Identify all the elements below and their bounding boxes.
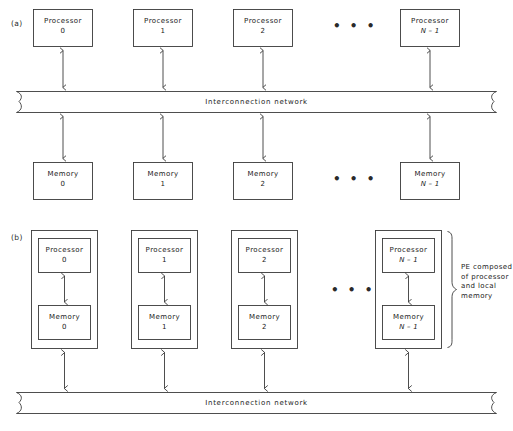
pe-processor-box-2 xyxy=(239,239,291,273)
pe-memory-box-0 xyxy=(39,306,91,340)
panel-label-a: (a) xyxy=(11,19,23,28)
memory-box-0 xyxy=(34,163,93,200)
memory-box-n xyxy=(401,163,460,200)
pe-memory-box-1 xyxy=(139,306,191,340)
figure-canvas xyxy=(0,0,513,431)
processor-box-0 xyxy=(34,10,93,47)
panel-label-b: (b) xyxy=(11,233,23,242)
processor-box-n xyxy=(401,10,460,47)
pe-annotation-text: PE composed of processor and local memor… xyxy=(461,263,512,301)
pe-annotation-brace xyxy=(448,232,457,348)
pe-memory-box-2 xyxy=(239,306,291,340)
interconnection-network-label-b: Interconnection network xyxy=(0,399,513,407)
pe-annotation-line-1: PE composed xyxy=(461,263,512,273)
processor-box-1 xyxy=(134,10,193,47)
parallel-architecture-figure: (a) (b) Processor 0 Processor 1 Processo… xyxy=(0,0,513,431)
memory-box-1 xyxy=(134,163,193,200)
pe-processor-box-1 xyxy=(139,239,191,273)
ellipsis-memories: • • • xyxy=(333,173,377,185)
processor-box-2 xyxy=(234,10,293,47)
interconnection-network-label-a: Interconnection network xyxy=(0,98,513,106)
pe-memory-box-n xyxy=(383,306,435,340)
pe-annotation-line-3: and local xyxy=(461,282,512,292)
pe-annotation-line-4: memory xyxy=(461,292,512,302)
ellipsis-processors: • • • xyxy=(333,20,377,32)
pe-processor-box-0 xyxy=(39,239,91,273)
memory-box-2 xyxy=(234,163,293,200)
pe-processor-box-n xyxy=(383,239,435,273)
pe-annotation-line-2: of processor xyxy=(461,273,512,283)
ellipsis-processing-elements: • • • xyxy=(331,284,375,296)
